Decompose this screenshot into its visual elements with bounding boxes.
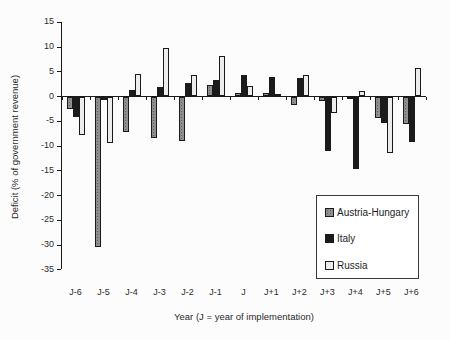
y-tick-label: -25 — [26, 215, 54, 224]
x-tick — [62, 97, 63, 100]
x-tick — [230, 97, 231, 100]
x-tick — [202, 97, 203, 100]
x-tick — [370, 97, 371, 100]
y-tick — [57, 96, 61, 97]
x-tick — [398, 97, 399, 100]
y-tick — [57, 195, 61, 196]
bar-russia-J+6 — [415, 68, 421, 96]
x-axis-title: Year (J = year of implementation) — [62, 311, 426, 322]
deficit-bar-chart: 151050-5-10-15-20-25-30-35J-6J-5J-4J-3J-… — [0, 0, 450, 340]
bar-russia-J+1 — [275, 94, 281, 96]
x-tick-label-J-5: J-5 — [90, 288, 118, 297]
x-tick — [342, 97, 343, 100]
legend-swatch-austria-hungary — [325, 208, 334, 217]
x-tick-label-J+2: J+2 — [286, 288, 314, 297]
bar-russia-J-1 — [219, 56, 225, 96]
x-tick — [314, 97, 315, 100]
bar-austria-hungary-J+2 — [291, 97, 297, 105]
bar-austria-hungary-J-4 — [123, 97, 129, 132]
y-tick — [57, 146, 61, 147]
legend-label-russia: Russia — [337, 260, 368, 271]
legend-label-austria-hungary: Austria-Hungary — [337, 207, 409, 218]
y-tick — [57, 121, 61, 122]
x-tick — [426, 97, 427, 100]
x-tick-label-J-3: J-3 — [146, 288, 174, 297]
y-tick-label: 5 — [26, 67, 54, 76]
y-tick — [57, 220, 61, 221]
x-tick-label-J-6: J-6 — [62, 288, 90, 297]
x-tick-label-J: J — [230, 288, 258, 297]
x-tick-label-J-4: J-4 — [118, 288, 146, 297]
y-tick — [57, 170, 61, 171]
bar-russia-J-2 — [191, 75, 197, 96]
legend: Austria-Hungary Italy Russia — [316, 195, 419, 279]
y-tick — [57, 245, 61, 246]
x-tick-label-J+6: J+6 — [398, 288, 426, 297]
x-tick — [90, 97, 91, 100]
bar-austria-hungary-J-3 — [151, 97, 157, 138]
x-tick-label-J-2: J-2 — [174, 288, 202, 297]
bar-russia-J+4 — [359, 91, 365, 96]
y-axis-title: Deficit (% of government revenue) — [9, 75, 20, 219]
bar-russia-J — [247, 86, 253, 96]
y-tick — [57, 71, 61, 72]
plot-area: 151050-5-10-15-20-25-30-35J-6J-5J-4J-3J-… — [0, 0, 450, 340]
y-tick — [57, 47, 61, 48]
y-tick — [57, 22, 61, 23]
bar-russia-J+3 — [331, 97, 337, 113]
bar-austria-hungary-J-2 — [179, 97, 185, 141]
x-tick-label-J-1: J-1 — [202, 288, 230, 297]
bar-russia-J+2 — [303, 75, 309, 96]
y-tick-label: -30 — [26, 240, 54, 249]
legend-label-italy: Italy — [337, 233, 355, 244]
y-tick-label: 15 — [26, 17, 54, 26]
x-tick-label-J+3: J+3 — [314, 288, 342, 297]
legend-entry-russia: Russia — [325, 260, 368, 271]
x-axis-line — [61, 96, 426, 97]
y-tick-label: -35 — [26, 265, 54, 274]
bar-austria-hungary-J-5 — [95, 97, 101, 247]
x-tick — [146, 97, 147, 100]
legend-entry-austria-hungary: Austria-Hungary — [325, 207, 409, 218]
legend-entry-italy: Italy — [325, 233, 355, 244]
bar-italy-J+6 — [409, 97, 415, 142]
x-tick — [174, 97, 175, 100]
x-tick-label-J+4: J+4 — [342, 288, 370, 297]
x-tick-label-J+5: J+5 — [370, 288, 398, 297]
x-tick — [286, 97, 287, 100]
bar-italy-J+4 — [353, 97, 359, 169]
y-tick-label: 10 — [26, 42, 54, 51]
y-tick-label: -10 — [26, 141, 54, 150]
y-tick-label: -20 — [26, 191, 54, 200]
x-tick — [258, 97, 259, 100]
x-tick-label-J+1: J+1 — [258, 288, 286, 297]
bar-russia-J-6 — [79, 97, 85, 135]
legend-swatch-italy — [325, 234, 334, 243]
legend-swatch-russia — [325, 261, 334, 270]
y-tick — [57, 269, 61, 270]
bar-russia-J+5 — [387, 97, 393, 153]
y-tick-label: -5 — [26, 116, 54, 125]
bar-russia-J-4 — [135, 74, 141, 96]
bar-russia-J-3 — [163, 48, 169, 96]
x-tick — [118, 97, 119, 100]
y-axis-line — [61, 22, 62, 270]
bar-russia-J-5 — [107, 97, 113, 143]
y-tick-label: -15 — [26, 166, 54, 175]
y-tick-label: 0 — [26, 92, 54, 101]
